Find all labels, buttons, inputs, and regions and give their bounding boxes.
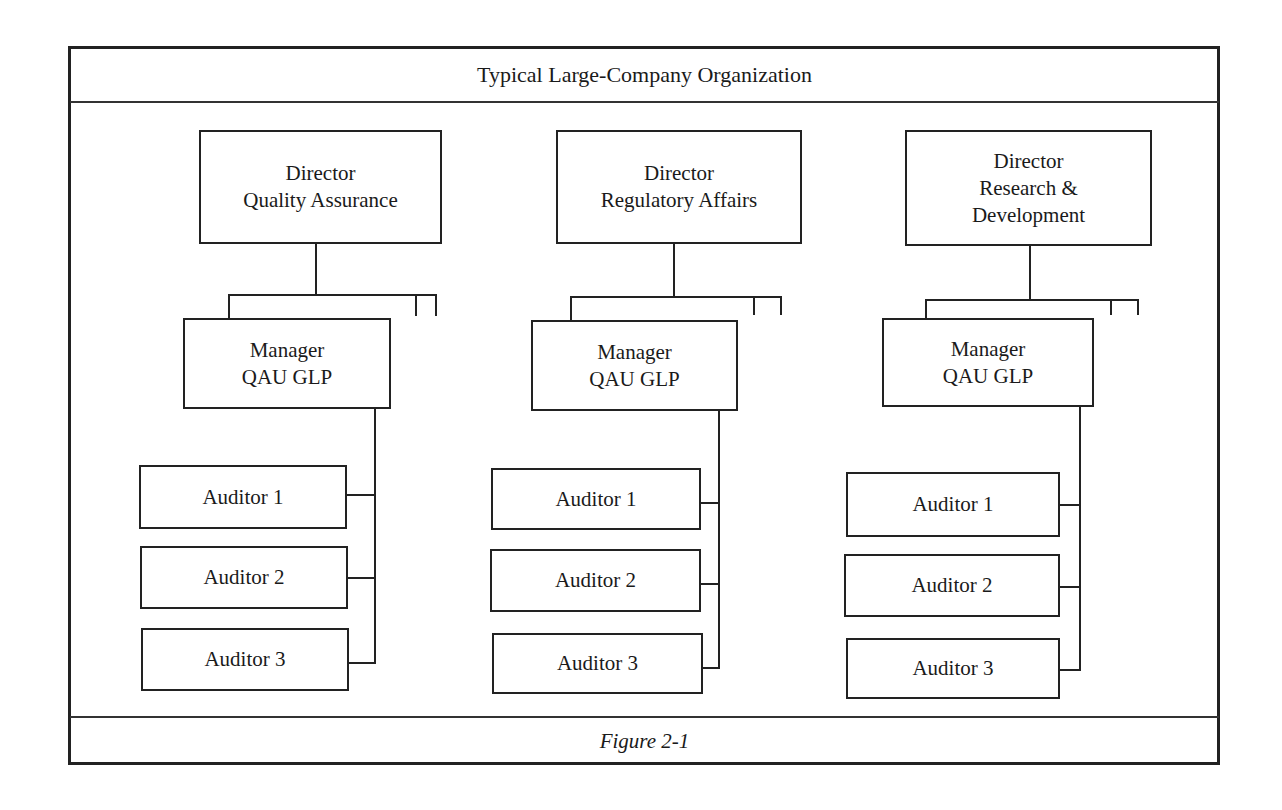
director-department: Regulatory Affairs xyxy=(601,187,758,214)
auditor-label: Auditor 3 xyxy=(912,655,993,682)
director-title: Director xyxy=(644,160,714,187)
director-quality-assurance-box: Director Quality Assurance xyxy=(199,130,442,244)
auditor-label: Auditor 2 xyxy=(911,572,992,599)
director-title: Director xyxy=(994,148,1064,175)
auditor-label: Auditor 2 xyxy=(203,564,284,591)
director-department-cont: Development xyxy=(972,202,1085,229)
auditor-box: Auditor 2 xyxy=(140,546,348,609)
manager-box-rd: Manager QAU GLP xyxy=(882,318,1094,407)
auditor-box: Auditor 2 xyxy=(844,554,1060,617)
director-regulatory-affairs-box: Director Regulatory Affairs xyxy=(556,130,802,244)
auditor-label: Auditor 3 xyxy=(557,650,638,677)
auditor-box: Auditor 2 xyxy=(490,549,701,612)
manager-title: Manager xyxy=(597,339,672,366)
auditor-box: Auditor 1 xyxy=(846,472,1060,537)
director-department: Research & xyxy=(979,175,1078,202)
manager-box-ra: Manager QAU GLP xyxy=(531,320,738,411)
director-department: Quality Assurance xyxy=(243,187,398,214)
auditor-label: Auditor 3 xyxy=(204,646,285,673)
manager-title: Manager xyxy=(951,336,1026,363)
figure-caption: Figure 2-1 xyxy=(70,716,1219,764)
auditor-box: Auditor 1 xyxy=(139,465,347,529)
auditor-box: Auditor 3 xyxy=(846,638,1060,699)
manager-unit: QAU GLP xyxy=(589,366,679,393)
manager-box-qa: Manager QAU GLP xyxy=(183,318,391,409)
director-title: Director xyxy=(286,160,356,187)
auditor-box: Auditor 3 xyxy=(492,633,703,694)
auditor-label: Auditor 1 xyxy=(912,491,993,518)
auditor-box: Auditor 1 xyxy=(491,468,701,530)
auditor-box: Auditor 3 xyxy=(141,628,349,691)
manager-title: Manager xyxy=(250,337,325,364)
manager-unit: QAU GLP xyxy=(943,363,1033,390)
director-research-development-box: Director Research & Development xyxy=(905,130,1152,246)
auditor-label: Auditor 1 xyxy=(202,484,283,511)
manager-unit: QAU GLP xyxy=(242,364,332,391)
auditor-label: Auditor 2 xyxy=(555,567,636,594)
auditor-label: Auditor 1 xyxy=(555,486,636,513)
